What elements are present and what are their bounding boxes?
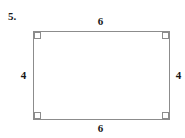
right-angle-mark-bottom-left-icon (34, 112, 41, 119)
rectangle-shape (33, 31, 170, 120)
right-angle-mark-top-left-icon (34, 32, 41, 39)
side-label-bottom: 6 (0, 122, 185, 134)
side-label-right: 4 (173, 69, 184, 81)
geometry-figure-canvas: 5. 6 4 4 6 (0, 0, 185, 138)
right-angle-mark-top-right-icon (162, 32, 169, 39)
side-label-left: 4 (18, 69, 29, 81)
side-label-top: 6 (0, 15, 185, 27)
right-angle-mark-bottom-right-icon (162, 112, 169, 119)
